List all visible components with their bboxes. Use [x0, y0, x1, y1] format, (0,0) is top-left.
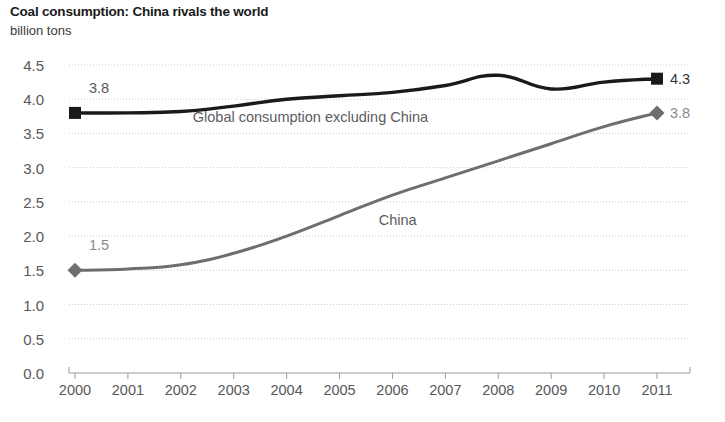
series-marker-square — [69, 107, 81, 119]
global-end-value-label: 4.3 — [670, 71, 690, 87]
china-start-value-label: 1.5 — [89, 237, 109, 253]
plot-area — [0, 0, 725, 422]
axis-lines — [69, 367, 690, 379]
series-marker-diamond — [68, 263, 83, 278]
global-series-label: Global consumption excluding China — [193, 109, 428, 125]
series-layer — [68, 73, 665, 278]
series-line — [75, 75, 657, 113]
coal-consumption-chart: Coal consumption: China rivals the world… — [0, 0, 725, 422]
series-marker-square — [651, 73, 663, 85]
series-marker-diamond — [650, 105, 665, 120]
global-start-value-label: 3.8 — [89, 80, 109, 96]
series-line — [75, 113, 657, 270]
gridlines — [69, 65, 690, 339]
china-series-label: China — [379, 212, 417, 228]
china-end-value-label: 3.8 — [670, 105, 690, 121]
series-china — [68, 105, 665, 277]
